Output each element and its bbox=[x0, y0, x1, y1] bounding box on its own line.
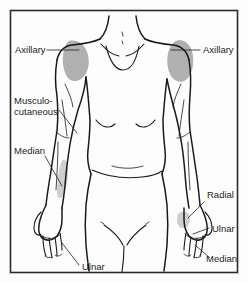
label-musculocutaneous-line2: cutaneous bbox=[14, 106, 58, 117]
label-axillary-left: Axillary bbox=[15, 44, 46, 55]
label-radial-right: Radial bbox=[207, 189, 234, 200]
label-axillary-right: Axillary bbox=[203, 44, 234, 55]
label-median-left: Median bbox=[14, 145, 45, 156]
label-ulnar-left: Ulnar bbox=[82, 261, 105, 272]
label-median-right: Median bbox=[206, 253, 237, 264]
label-ulnar-right: Ulnar bbox=[212, 223, 235, 234]
label-musculocutaneous-line1: Musculo- bbox=[14, 95, 53, 106]
anatomical-illustration: Axillary Axillary Musculo- cutaneous Med… bbox=[0, 0, 248, 283]
nerve-block-diagram: Axillary Axillary Musculo- cutaneous Med… bbox=[0, 0, 248, 283]
figure-background bbox=[0, 0, 248, 283]
